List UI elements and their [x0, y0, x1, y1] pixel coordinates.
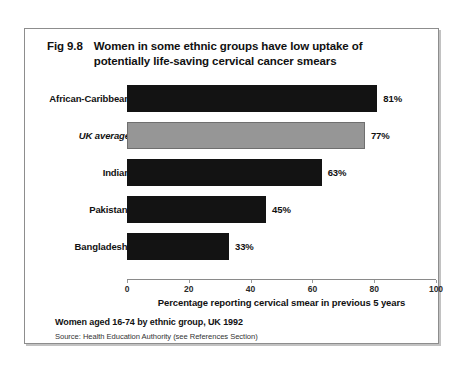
bar-row: Bangladeshi33% — [25, 233, 440, 260]
category-label: African-Caribbean — [49, 85, 130, 112]
bar-value-label: 33% — [235, 233, 254, 260]
x-axis-tick — [189, 280, 190, 283]
x-axis-title: Percentage reporting cervical smear in p… — [127, 297, 436, 308]
bar — [127, 122, 365, 149]
bar-row: Indian63% — [25, 159, 440, 186]
figure-title-line-1: Women in some ethnic groups have low upt… — [94, 39, 363, 54]
bar — [127, 196, 266, 223]
footer-source: Source: Health Education Authority (see … — [55, 332, 425, 341]
x-axis-tick-label: 80 — [369, 284, 378, 294]
x-axis-tick-label: 60 — [308, 284, 317, 294]
x-axis-tick-label: 20 — [184, 284, 193, 294]
figure-frame: Fig 9.8 Women in some ethnic groups have… — [24, 28, 439, 344]
bar-value-label: 77% — [371, 122, 390, 149]
x-axis-tick — [312, 280, 313, 283]
x-axis-tick-label: 100 — [429, 284, 443, 294]
bar-row: Pakistani45% — [25, 196, 440, 223]
bar-value-label: 45% — [272, 196, 291, 223]
category-label: Bangladeshi — [75, 233, 130, 260]
footer-note: Women aged 16-74 by ethnic group, UK 199… — [55, 317, 425, 327]
x-axis-tick — [374, 280, 375, 283]
bar-value-label: 81% — [383, 85, 402, 112]
figure-footer: Women aged 16-74 by ethnic group, UK 199… — [55, 317, 425, 341]
x-axis-tick-label: 0 — [125, 284, 130, 294]
figure-title-line-2: potentially life-saving cervical cancer … — [94, 54, 363, 69]
bar-row: UK average77% — [25, 122, 440, 149]
bar — [127, 159, 322, 186]
figure-number: Fig 9.8 — [47, 39, 94, 54]
page-title: Women in some ethnic groups have low upt… — [94, 39, 363, 69]
chart-plot-area: African-Caribbean81%UK average77%Indian6… — [25, 85, 440, 285]
category-label: Pakistani — [89, 196, 130, 223]
bar — [127, 85, 377, 112]
bar — [127, 233, 229, 260]
x-axis-tick-label: 40 — [246, 284, 255, 294]
bar-row: African-Caribbean81% — [25, 85, 440, 112]
bar-value-label: 63% — [328, 159, 347, 186]
figure-title-block: Fig 9.8 Women in some ethnic groups have… — [47, 39, 422, 69]
category-label: Indian — [103, 159, 130, 186]
x-axis-tick — [436, 280, 437, 283]
category-label: UK average — [79, 122, 130, 149]
x-axis-tick — [127, 280, 128, 283]
x-axis-tick — [251, 280, 252, 283]
x-axis-line — [127, 279, 436, 280]
